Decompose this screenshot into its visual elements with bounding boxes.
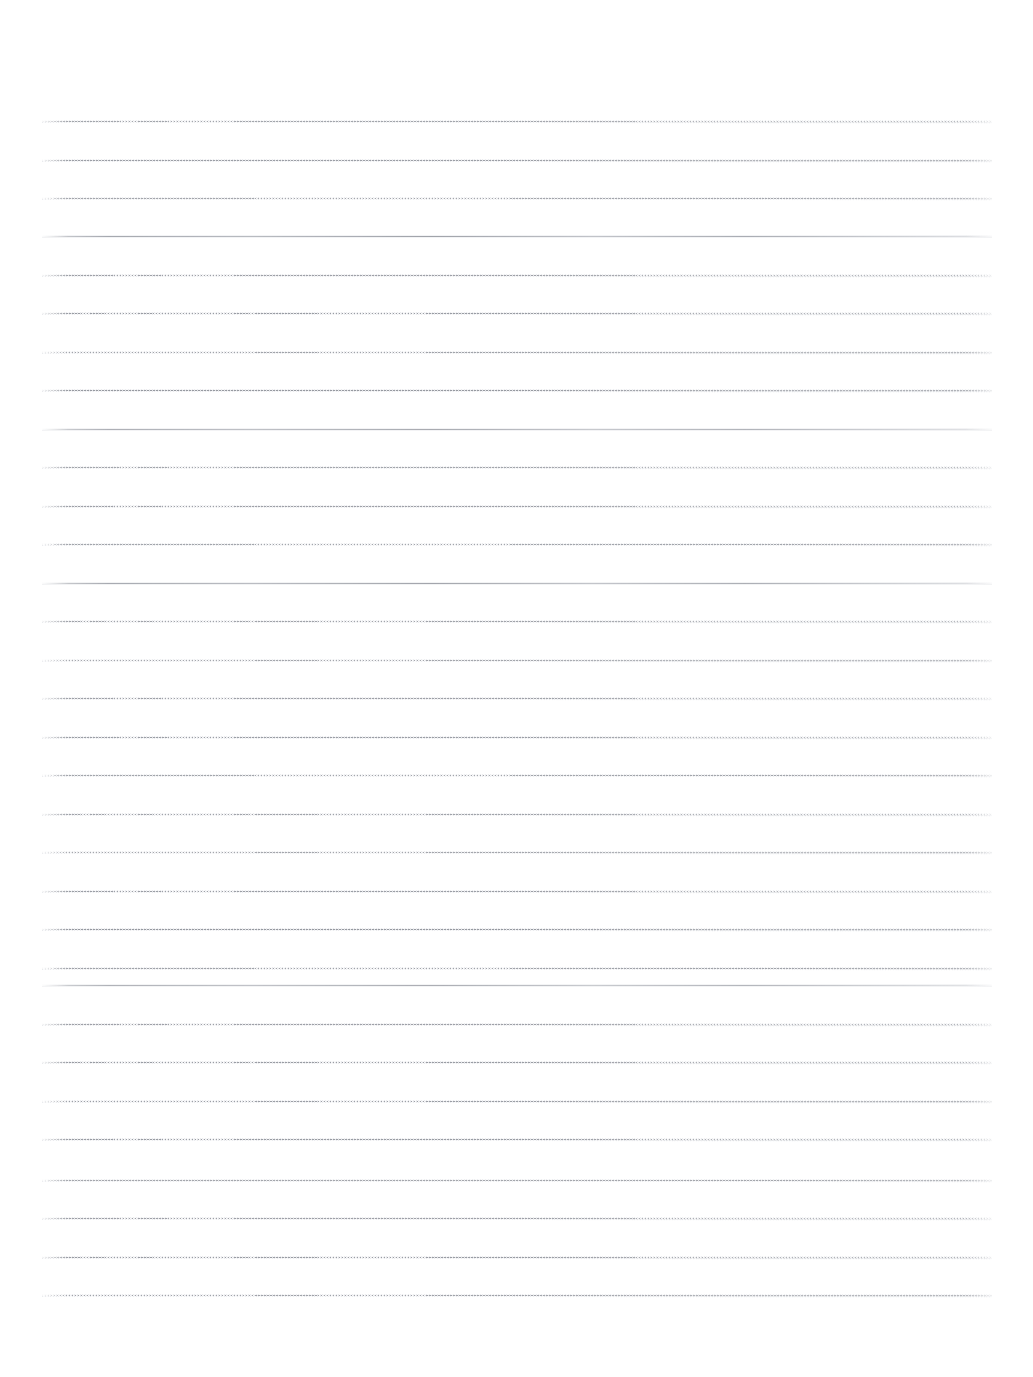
ruled-line xyxy=(42,120,992,123)
ruled-line-stroke xyxy=(42,1257,992,1258)
ruled-line xyxy=(42,1256,992,1259)
ruled-line xyxy=(42,312,992,315)
ruled-line-stroke xyxy=(42,1139,992,1140)
ruled-line xyxy=(42,543,992,546)
ruled-line xyxy=(42,620,992,623)
ruled-line xyxy=(42,235,992,238)
ruled-line-stroke xyxy=(42,852,992,853)
ruled-line-stroke xyxy=(42,583,992,584)
ruled-line-stroke xyxy=(42,236,992,237)
ruled-line-stroke xyxy=(42,1062,992,1063)
ruled-line xyxy=(42,1061,992,1064)
ruled-line xyxy=(42,928,992,931)
ruled-line xyxy=(42,274,992,277)
ruled-line xyxy=(42,505,992,508)
ruled-line-stroke xyxy=(42,467,992,468)
ruled-line xyxy=(42,1100,992,1103)
ruled-line-stroke xyxy=(42,698,992,699)
ruled-line xyxy=(42,582,992,585)
ruled-line xyxy=(42,197,992,200)
ruled-line xyxy=(42,1138,992,1141)
ruled-line-stroke xyxy=(42,621,992,622)
ruled-line-stroke xyxy=(42,985,992,986)
ruled-line-stroke xyxy=(42,660,992,661)
ruled-line xyxy=(42,428,992,431)
ruled-line xyxy=(42,389,992,392)
ruled-line-stroke xyxy=(42,352,992,353)
ruled-line xyxy=(42,697,992,700)
ruled-line-stroke xyxy=(42,1180,992,1181)
ruled-line-layer xyxy=(0,0,1033,1377)
ruled-line-stroke xyxy=(42,1024,992,1025)
ruled-line-stroke xyxy=(42,929,992,930)
ruled-line xyxy=(42,466,992,469)
ruled-line-stroke xyxy=(42,1218,992,1219)
ruled-line xyxy=(42,1294,992,1297)
ruled-line xyxy=(42,813,992,816)
ruled-line-stroke xyxy=(42,160,992,161)
ruled-line-stroke xyxy=(42,198,992,199)
ruled-line xyxy=(42,1023,992,1026)
scanned-page xyxy=(0,0,1033,1377)
ruled-line-stroke xyxy=(42,275,992,276)
ruled-line xyxy=(42,736,992,739)
ruled-line xyxy=(42,659,992,662)
ruled-line-stroke xyxy=(42,737,992,738)
ruled-line xyxy=(42,1217,992,1220)
ruled-line xyxy=(42,890,992,893)
ruled-line-stroke xyxy=(42,891,992,892)
ruled-line xyxy=(42,1179,992,1182)
ruled-line xyxy=(42,159,992,162)
ruled-line-stroke xyxy=(42,1101,992,1102)
ruled-line xyxy=(42,851,992,854)
ruled-line-stroke xyxy=(42,968,992,969)
ruled-line xyxy=(42,774,992,777)
ruled-line-stroke xyxy=(42,429,992,430)
ruled-line-stroke xyxy=(42,814,992,815)
ruled-line xyxy=(42,967,992,970)
ruled-line-stroke xyxy=(42,1295,992,1296)
ruled-line-stroke xyxy=(42,775,992,776)
ruled-line-stroke xyxy=(42,121,992,122)
ruled-line-stroke xyxy=(42,544,992,545)
ruled-line xyxy=(42,984,992,987)
ruled-line-stroke xyxy=(42,313,992,314)
ruled-line-stroke xyxy=(42,390,992,391)
ruled-line xyxy=(42,351,992,354)
ruled-line-stroke xyxy=(42,506,992,507)
